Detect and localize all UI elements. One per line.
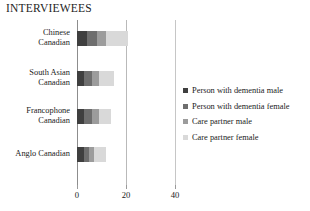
bar-segment-dementia-male: [77, 109, 84, 124]
x-tick-mark-40: [175, 185, 176, 189]
category-label-anglo-canadian: Anglo Canadian: [0, 149, 70, 159]
category-label-chinese-canadian: Chinese Canadian: [0, 28, 70, 47]
x-tick-label-40: 40: [165, 190, 185, 200]
bar-segment-partner-female: [99, 71, 114, 86]
x-tick-mark-0: [77, 185, 78, 189]
bar-segment-partner-female: [106, 31, 128, 46]
category-label-francophone-canadian: Francophone Canadian: [0, 106, 70, 125]
chart-title: INTERVIEWEES: [6, 2, 92, 14]
bar-segment-partner-female: [94, 147, 106, 162]
category-label-line: Anglo Canadian: [0, 149, 70, 159]
bar-francophone-canadian[interactable]: [77, 109, 111, 124]
legend-item-dementia-female[interactable]: Person with dementia female: [183, 99, 289, 115]
legend-label: Care partner female: [192, 133, 259, 142]
bar-chinese-canadian[interactable]: [77, 31, 128, 46]
x-tick-mark-20: [126, 185, 127, 189]
bar-segment-partner-male: [97, 31, 107, 46]
legend-swatch-icon: [183, 104, 188, 109]
legend-swatch-icon: [183, 119, 188, 124]
category-label-line: Canadian: [0, 38, 70, 48]
bar-segment-partner-female: [99, 109, 111, 124]
bar-segment-dementia-male: [77, 71, 84, 86]
bar-segment-partner-male: [92, 71, 99, 86]
bar-anglo-canadian[interactable]: [77, 147, 106, 162]
legend-item-partner-male[interactable]: Care partner male: [183, 114, 289, 130]
x-tick-label-0: 0: [67, 190, 87, 200]
legend-swatch-icon: [183, 135, 188, 140]
category-label-line: Canadian: [0, 116, 70, 126]
legend-swatch-icon: [183, 88, 188, 93]
bar-segment-dementia-female: [84, 109, 91, 124]
chart-legend: Person with dementia male Person with de…: [183, 83, 289, 145]
legend-item-dementia-male[interactable]: Person with dementia male: [183, 83, 289, 99]
legend-label: Care partner male: [192, 117, 252, 126]
bar-segment-dementia-female: [87, 31, 97, 46]
bar-segment-dementia-female: [84, 71, 91, 86]
legend-label: Person with dementia female: [192, 102, 289, 111]
category-label-line: Chinese: [0, 28, 70, 38]
category-label-south-asian-canadian: South Asian Canadian: [0, 68, 70, 87]
x-tick-label-20: 20: [116, 190, 136, 200]
legend-item-partner-female[interactable]: Care partner female: [183, 130, 289, 146]
category-label-line: Francophone: [0, 106, 70, 116]
bar-segment-dementia-male: [77, 147, 84, 162]
bar-south-asian-canadian[interactable]: [77, 71, 114, 86]
bar-segment-dementia-male: [77, 31, 87, 46]
category-label-line: South Asian: [0, 68, 70, 78]
legend-label: Person with dementia male: [192, 86, 283, 95]
axis-line-40: [175, 20, 176, 185]
plot-area: [77, 20, 175, 185]
bar-segment-partner-male: [92, 109, 99, 124]
category-label-line: Canadian: [0, 78, 70, 88]
